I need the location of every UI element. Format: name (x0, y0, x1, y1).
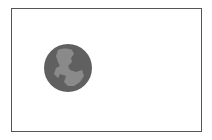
image-frame (11, 8, 202, 132)
globe-icon (44, 44, 92, 92)
